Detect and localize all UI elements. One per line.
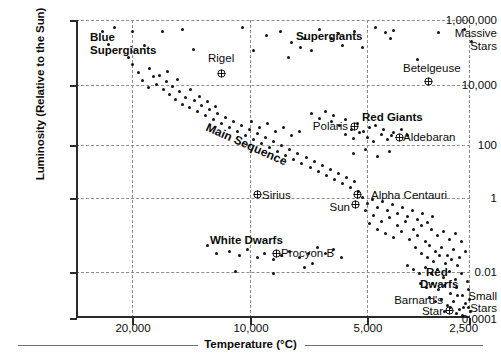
x-axis-title-wrap: Temperature (°C): [0, 338, 501, 350]
region-label-blue-supergiants-line2: Supergiants: [90, 44, 156, 57]
data-point: [250, 120, 253, 123]
region-label-blue-supergiants-line1: Blue: [90, 31, 115, 44]
data-point: [208, 108, 211, 111]
x-axis-title: Temperature: [204, 338, 273, 350]
data-point: [438, 254, 441, 257]
data-point: [345, 176, 348, 179]
data-point: [340, 256, 343, 259]
data-point: [282, 126, 285, 129]
region-label-white-dwarfs: White Dwarfs: [210, 234, 283, 247]
data-point: [324, 110, 327, 113]
star-label-betelgeuse: Betelgeuse: [403, 62, 461, 75]
ytick-mark-0.0001: [70, 318, 77, 320]
ylabel-massive-stars: Stars: [429, 40, 501, 52]
data-point: [241, 26, 244, 29]
data-point: [461, 294, 464, 297]
data-point: [412, 268, 415, 271]
data-point: [384, 31, 387, 34]
data-point: [147, 86, 150, 89]
data-point: [376, 206, 379, 209]
data-point: [178, 90, 181, 93]
data-point: [450, 258, 453, 261]
data-point: [292, 158, 295, 161]
data-point: [458, 308, 461, 311]
data-point: [449, 292, 452, 295]
data-point: [364, 209, 367, 212]
data-point: [298, 130, 301, 133]
data-point: [137, 71, 140, 74]
data-point: [131, 63, 134, 66]
star-marker-aldebaran: [395, 133, 404, 142]
data-point: [272, 272, 275, 275]
data-point: [467, 306, 470, 309]
data-point: [256, 132, 259, 135]
data-point: [206, 244, 209, 247]
data-point: [272, 258, 275, 261]
data-point: [368, 222, 371, 225]
data-point: [421, 212, 424, 215]
star-marker-alpha-centauri: [353, 190, 362, 199]
region-label-red-giants: Red Giants: [362, 111, 423, 124]
data-point: [188, 106, 191, 109]
data-point: [384, 232, 387, 235]
data-point: [361, 46, 364, 49]
data-point: [462, 306, 465, 309]
star-label-aldebaran: Aldebaran: [403, 131, 455, 144]
x-axis-unit: (°C): [276, 338, 297, 350]
data-point: [305, 156, 308, 159]
data-point: [372, 140, 375, 143]
data-point: [416, 234, 419, 237]
data-point: [181, 28, 184, 31]
data-point: [296, 152, 299, 155]
data-point: [470, 40, 473, 43]
data-point: [152, 75, 155, 78]
star-marker-sun: [351, 200, 360, 209]
data-point: [406, 264, 409, 267]
data-point: [467, 288, 470, 291]
data-point: [352, 137, 355, 140]
data-point: [366, 136, 369, 139]
data-point: [279, 30, 282, 33]
data-point: [252, 49, 255, 52]
data-point: [431, 215, 434, 218]
data-point: [420, 252, 423, 255]
data-point: [408, 238, 411, 241]
data-point: [440, 246, 443, 249]
data-point: [455, 312, 458, 315]
data-point: [428, 244, 431, 247]
data-point: [418, 272, 421, 275]
data-point: [456, 264, 459, 267]
star-marker-betelgeuse: [424, 77, 433, 86]
data-point: [386, 138, 389, 141]
data-point: [466, 280, 469, 283]
data-point: [434, 250, 437, 253]
data-point: [442, 230, 445, 233]
data-point: [444, 262, 447, 265]
data-point: [162, 88, 165, 91]
data-point: [265, 34, 268, 37]
data-point: [454, 232, 457, 235]
star-label-alpha-centauri: Alpha Centauri: [371, 189, 447, 202]
data-point: [368, 126, 371, 129]
xtick-label-2500: 2,500: [449, 322, 478, 334]
data-point: [436, 234, 439, 237]
star-label-barnards-line2: Star: [422, 305, 443, 318]
region-label-supergiants: Supergiants: [296, 30, 362, 43]
data-point: [388, 150, 391, 153]
ytick-mark-10000: [70, 85, 77, 87]
data-point: [412, 228, 415, 231]
data-point: [204, 114, 207, 117]
data-point: [463, 28, 466, 31]
data-point: [310, 112, 313, 115]
data-point: [341, 182, 344, 185]
data-point: [426, 221, 429, 224]
data-point: [329, 168, 332, 171]
data-point: [389, 37, 392, 40]
star-marker-rigel: [217, 69, 226, 78]
data-point: [437, 31, 440, 34]
ytick-mark-0.01: [70, 272, 77, 274]
data-point: [224, 116, 227, 119]
ytick-mark-1: [70, 198, 77, 200]
data-point: [155, 83, 158, 86]
data-point: [469, 310, 472, 313]
